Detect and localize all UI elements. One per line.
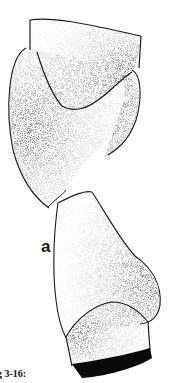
upper-tooth	[9, 19, 141, 208]
tooth-illustration	[0, 0, 170, 383]
figure-caption: g 3-16:	[0, 369, 26, 379]
lower-tooth	[54, 192, 161, 378]
figure-label-a: a	[41, 238, 50, 255]
